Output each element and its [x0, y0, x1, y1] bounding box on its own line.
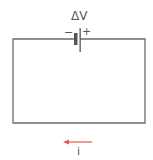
- voltage-label: ΔV: [71, 10, 87, 22]
- current-label: i: [77, 146, 80, 157]
- current-arrow: [63, 140, 92, 145]
- circuit-wires: [13, 39, 145, 123]
- battery-positive-plate: [80, 28, 81, 52]
- positive-terminal-sign: +: [82, 26, 91, 37]
- battery-negative-plate: [74, 33, 78, 45]
- negative-terminal-sign: −: [64, 27, 73, 38]
- battery-symbol: [74, 28, 81, 52]
- circuit-diagram: [0, 0, 153, 160]
- arrow-head-icon: [63, 140, 69, 145]
- wire-loop: [13, 39, 145, 123]
